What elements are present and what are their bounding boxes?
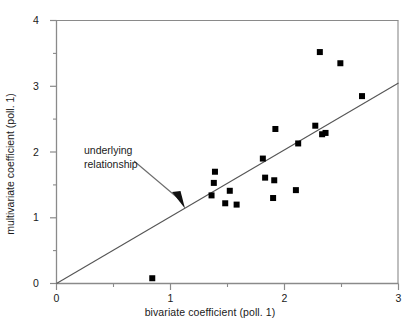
y-axis-title: multivariate coefficient (poll. 1) [4, 44, 16, 284]
x-axis-title: bivariate coefficient (poll. 1) [0, 306, 420, 318]
scatter-chart-figure: 4 3 2 1 0 0 1 2 3 bivariate coefficient … [0, 0, 420, 331]
data-point [211, 180, 217, 186]
y-tick-label-2: 2 [26, 146, 46, 158]
annotation-line-2: relationship [84, 157, 138, 171]
data-point [271, 177, 277, 183]
x-tick-label-2: 2 [275, 292, 295, 304]
data-point [317, 49, 323, 55]
underlying-relationship-line [57, 83, 399, 284]
y-axis-major-ticks [50, 21, 57, 284]
data-point [227, 188, 233, 194]
data-point [260, 156, 266, 162]
data-point [149, 275, 155, 281]
plot-canvas [0, 0, 420, 331]
data-point [337, 60, 343, 66]
data-point [209, 192, 215, 198]
data-point [234, 202, 240, 208]
y-tick-label-3: 3 [26, 80, 46, 92]
data-point [293, 187, 299, 193]
x-tick-label-1: 1 [161, 292, 181, 304]
data-point [295, 140, 301, 146]
data-point [222, 200, 228, 206]
data-point [272, 126, 278, 132]
data-point [359, 93, 365, 99]
data-point [212, 169, 218, 175]
annotation-arrow [134, 161, 185, 209]
data-point [262, 175, 268, 181]
y-axis-title-wrapper: multivariate coefficient (poll. 1) [0, 0, 20, 331]
data-point [270, 195, 276, 201]
data-points-group [149, 49, 365, 281]
y-tick-label-1: 1 [26, 211, 46, 223]
data-point [312, 123, 318, 129]
data-point [323, 130, 329, 136]
y-tick-label-4: 4 [26, 14, 46, 26]
y-tick-label-0: 0 [26, 277, 46, 289]
x-tick-label-3: 3 [389, 292, 409, 304]
annotation-line-1: underlying [84, 143, 132, 157]
x-tick-label-0: 0 [47, 292, 67, 304]
